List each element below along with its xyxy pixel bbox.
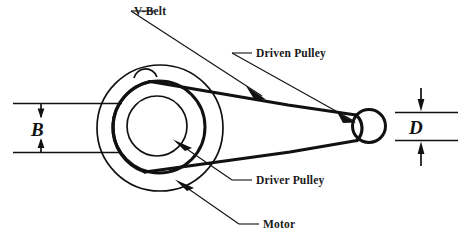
diagram-canvas: B (0, 0, 464, 248)
callout-driven-pulley-label: Driven Pulley (256, 47, 326, 60)
v-belt-wrap-driver (113, 82, 150, 173)
belt-drive-diagram: B (0, 0, 464, 248)
callout-driver-pulley-label: Driver Pulley (256, 174, 325, 187)
v-belt (113, 82, 362, 173)
callout-driven-pulley-leader (232, 53, 352, 120)
driver-pulley-hub (127, 96, 187, 156)
dimension-d-arrowhead-down (418, 99, 425, 112)
dimension-d-arrowhead-up (418, 142, 425, 155)
callout-v-belt: V-Belt (131, 5, 266, 100)
callout-v-belt-label: V-Belt (134, 5, 166, 17)
v-belt-lower-span (145, 141, 357, 173)
dimension-b: B (13, 104, 122, 153)
callout-motor: Motor (175, 180, 295, 231)
dimension-d: D (395, 88, 458, 166)
dimension-d-label: D (408, 117, 423, 138)
dimension-b-label: B (30, 119, 44, 140)
v-belt-upper-span (150, 82, 356, 116)
callout-motor-label: Motor (263, 218, 295, 230)
dimension-b-arrowhead-down (38, 109, 45, 119)
callout-driven-pulley: Driven Pulley (232, 47, 356, 123)
motor-top-boss (134, 69, 157, 78)
